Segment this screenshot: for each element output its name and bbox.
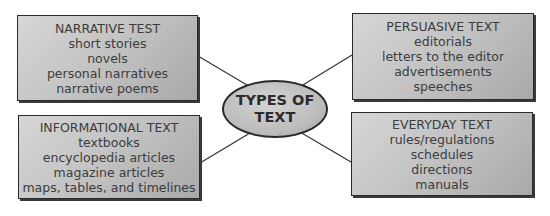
box-item: novels [18,51,197,66]
center-title-line2: TEXT [255,109,296,126]
narrative-text-box: NARRATIVE TEST short stories novels pers… [17,15,198,101]
connector-persuasive [298,55,352,88]
box-item: textbooks [19,135,199,150]
box-item: speeches [353,79,533,94]
box-item: directions [352,162,532,177]
box-item: short stories [18,36,197,51]
center-oval: TYPES OF TEXT [222,80,328,138]
informational-text-box: INFORMATIONAL TEXT textbooks encyclopedi… [18,115,200,199]
connector-informational [200,133,250,163]
connector-narrative [198,56,252,88]
box-item: narrative poems [18,81,197,96]
box-item: personal narratives [18,66,197,81]
box-item: encyclopedia articles [19,150,199,165]
connector-everyday [300,132,351,162]
box-title: INFORMATIONAL TEXT [19,120,199,135]
center-title-line1: TYPES OF [236,92,315,109]
box-item: rules/regulations [352,132,532,147]
persuasive-text-box: PERSUASIVE TEXT editorials letters to th… [352,13,534,100]
box-title: PERSUASIVE TEXT [353,19,533,34]
box-item: editorials [353,34,533,49]
box-item: maps, tables, and timelines [19,180,199,195]
everyday-text-box: EVERYDAY TEXT rules/regulations schedule… [351,112,533,196]
box-item: advertisements [353,64,533,79]
box-item: letters to the editor [353,49,533,64]
box-title: NARRATIVE TEST [18,21,197,36]
box-item: schedules [352,147,532,162]
box-item: manuals [352,177,532,192]
box-item: magazine articles [19,165,199,180]
box-title: EVERYDAY TEXT [352,117,532,132]
